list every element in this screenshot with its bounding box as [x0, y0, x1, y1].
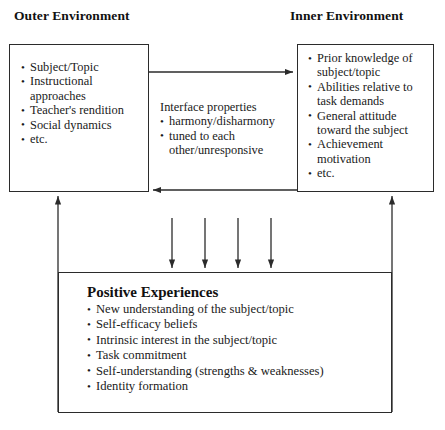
interface-properties-content: Interface properties harmony/disharmony … — [160, 100, 296, 158]
list-item: Instructional approaches — [21, 74, 143, 103]
list-item: Teacher's rendition — [21, 103, 143, 117]
positive-experiences-title: Positive Experiences — [87, 283, 387, 301]
list-item: Identity formation — [87, 379, 387, 394]
positive-experiences-content: Positive Experiences New understanding o… — [87, 283, 387, 394]
inner-environment-box: Prior knowledge of subject/topic Abiliti… — [297, 44, 434, 192]
list-item: Intrinsic interest in the subject/topic — [87, 333, 387, 348]
inner-environment-list: Prior knowledge of subject/topic Abiliti… — [308, 51, 432, 181]
list-item: Task commitment — [87, 348, 387, 363]
list-item: Self-understanding (strengths & weakness… — [87, 364, 387, 379]
list-item: etc. — [308, 166, 432, 180]
list-item: Achievement motivation — [308, 137, 432, 166]
list-item: Social dynamics — [21, 118, 143, 132]
arrow-down-group — [172, 218, 271, 268]
list-item: New understanding of the subject/topic — [87, 302, 387, 317]
positive-experiences-list: New understanding of the subject/topic S… — [87, 302, 387, 394]
positive-experiences-box: Positive Experiences New understanding o… — [58, 272, 392, 413]
diagram-canvas: Outer Environment Inner Environment — [0, 0, 445, 430]
list-item: Self-efficacy beliefs — [87, 317, 387, 332]
interface-properties-panel: Interface properties harmony/disharmony … — [148, 44, 298, 192]
outer-environment-list: Subject/Topic Instructional approaches T… — [21, 60, 143, 146]
list-item: Prior knowledge of subject/topic — [308, 51, 432, 80]
inner-environment-content: Prior knowledge of subject/topic Abiliti… — [308, 51, 432, 181]
interface-properties-list: harmony/disharmony tuned to each other/u… — [160, 114, 296, 157]
list-item: tuned to each other/unresponsive — [160, 129, 296, 158]
outer-environment-content: Subject/Topic Instructional approaches T… — [21, 60, 143, 146]
list-item: etc. — [21, 132, 143, 146]
list-item: Abilities relative to task demands — [308, 80, 432, 109]
list-item: Subject/Topic — [21, 60, 143, 74]
list-item: harmony/disharmony — [160, 114, 296, 128]
list-item: General attitude toward the subject — [308, 109, 432, 138]
inner-environment-heading: Inner Environment — [290, 8, 403, 24]
interface-properties-title: Interface properties — [160, 100, 296, 114]
outer-environment-box: Subject/Topic Instructional approaches T… — [9, 44, 149, 192]
outer-environment-heading: Outer Environment — [14, 8, 130, 24]
